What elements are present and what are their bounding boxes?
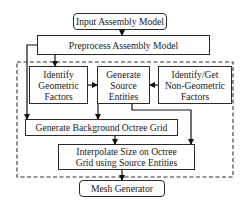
identify-non-geometric-factors-node: Identify/Get Non-Geometric Factors: [158, 66, 232, 104]
node-label-line: Source: [110, 80, 137, 91]
node-label-line: Grid using Source Entities: [76, 157, 178, 168]
node-label: Preprocess Assembly Model: [69, 40, 178, 51]
input-assembly-model-node: Input Assembly Model: [73, 13, 167, 30]
node-label-line: Identify: [43, 69, 73, 80]
preprocess-assembly-model-node: Preprocess Assembly Model: [37, 35, 210, 55]
identify-geometric-factors-node: Identify Geometric Factors: [29, 66, 88, 104]
node-label: Generate Background Octree Grid: [36, 122, 168, 133]
mesh-generator-node: Mesh Generator: [79, 180, 165, 197]
generate-source-entities-node: Generate Source Entities: [97, 66, 150, 104]
node-label-line: Factors: [181, 91, 209, 102]
node-label-line: Identify/Get: [172, 69, 219, 80]
node-label-line: Non-Geometric: [165, 80, 225, 91]
node-label-line: Factors: [44, 91, 72, 102]
node-label-line: Entities: [109, 91, 138, 102]
node-label: Input Assembly Model: [76, 16, 164, 27]
generate-background-octree-grid-node: Generate Background Octree Grid: [25, 119, 178, 136]
node-label-line: Generate: [106, 69, 141, 80]
node-label-line: Interpolate Size on Octree: [76, 146, 176, 157]
node-label-line: Geometric: [38, 80, 79, 91]
node-label: Mesh Generator: [91, 183, 153, 194]
interpolate-size-node: Interpolate Size on Octree Grid using So…: [58, 144, 195, 170]
